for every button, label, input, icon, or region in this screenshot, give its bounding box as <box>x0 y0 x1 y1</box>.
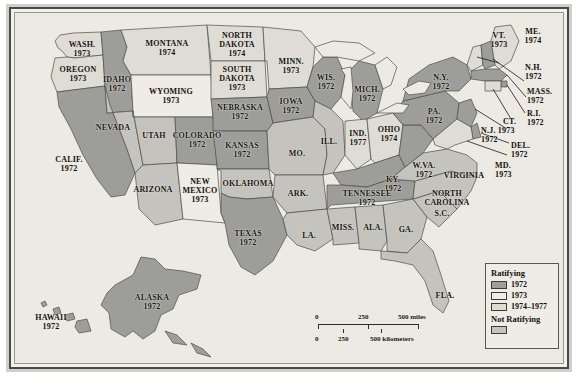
state-minnesota <box>263 27 315 89</box>
state-louisiana <box>283 209 333 251</box>
leader-line-md <box>467 141 507 155</box>
legend-swatch-1973 <box>491 292 507 300</box>
state-kansas <box>213 131 269 169</box>
scale-tick-end <box>418 324 419 329</box>
state-massachusetts <box>471 69 507 81</box>
scale-km-0: 0 <box>315 335 319 343</box>
state-texas <box>221 193 287 275</box>
legend-item-1974-1977: 1974–1977 <box>491 302 553 311</box>
scale-miles-500: 500 miles <box>398 313 426 321</box>
map-geometry: .s72{fill:#9d9d99;stroke:#4e4d49;stroke-… <box>15 13 563 363</box>
legend-title: Ratifying <box>491 268 553 278</box>
state-oklahoma <box>217 169 273 199</box>
state-montana <box>121 25 211 75</box>
state-south-dakota <box>211 61 267 99</box>
us-states-svg: .s72{fill:#9d9d99;stroke:#4e4d49;stroke-… <box>15 13 563 363</box>
legend-label-1974-1977: 1974–1977 <box>511 302 547 311</box>
scale-miles-0: 0 <box>315 313 319 321</box>
lake-erie <box>377 103 409 113</box>
legend-swatch-1974-1977 <box>491 303 507 311</box>
legend-label-1972: 1972 <box>511 280 527 289</box>
state-nebraska <box>211 97 273 131</box>
state-rhode-island <box>501 81 507 87</box>
state-washington <box>55 32 103 58</box>
legend-label-1973: 1973 <box>511 291 527 300</box>
leader-line-ri <box>507 85 525 113</box>
legend-title-not-ratifying: Not Ratifying <box>491 314 553 324</box>
legend-item-1973: 1973 <box>491 291 553 300</box>
state-north-dakota <box>207 25 265 61</box>
state-alaska <box>101 257 211 357</box>
map-canvas: .s72{fill:#9d9d99;stroke:#4e4d49;stroke-… <box>14 12 564 364</box>
leader-line-del <box>481 133 509 143</box>
leader-line-ct <box>493 89 511 119</box>
legend-item-not-ratifying <box>491 326 553 334</box>
scale-bar: 0 250 500 miles 0 250 500 kilometers <box>310 311 440 353</box>
scale-tick-km-2 <box>381 329 382 333</box>
state-arkansas <box>273 175 327 213</box>
state-oregon <box>51 55 105 92</box>
state-colorado <box>175 117 217 165</box>
state-indiana <box>345 119 371 169</box>
state-new-mexico <box>177 163 225 223</box>
leader-line-mass <box>507 75 526 97</box>
scale-km-250: 250 <box>338 335 349 343</box>
map-legend: Ratifying 1972 1973 1974–1977 Not Ratify… <box>485 263 559 349</box>
scale-tick-mid <box>368 324 369 329</box>
scale-km-500: 500 kilometers <box>370 335 414 343</box>
state-arizona <box>135 163 183 225</box>
leader-line-nj <box>475 109 507 129</box>
scale-tick-km-1 <box>343 329 344 333</box>
state-alabama <box>355 205 387 251</box>
scale-tick-start <box>318 324 319 329</box>
legend-swatch-1972 <box>491 281 507 289</box>
state-missouri <box>267 117 327 175</box>
map-figure: .s72{fill:#9d9d99;stroke:#4e4d49;stroke-… <box>0 0 581 388</box>
scale-miles-250: 250 <box>358 313 369 321</box>
state-wyoming <box>131 75 213 117</box>
legend-item-1972: 1972 <box>491 280 553 289</box>
state-hawaii <box>41 301 91 333</box>
state-maine <box>491 25 519 69</box>
legend-swatch-not-ratifying <box>491 326 507 334</box>
